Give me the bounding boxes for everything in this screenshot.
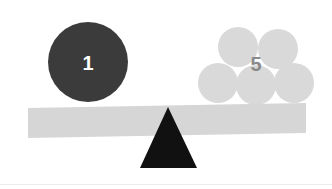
balance-scale-canvas: 1 5 <box>0 0 332 189</box>
balance-scale-figure: 1 5 <box>0 0 332 189</box>
right-pan-group: 5 <box>198 27 314 105</box>
left-pan-group: 1 <box>48 22 128 102</box>
light-weight-circle <box>198 63 238 103</box>
light-weight-circle <box>258 29 298 69</box>
light-weight-circle <box>274 63 314 103</box>
left-pan-count-label: 1 <box>82 52 93 74</box>
right-pan-count-label: 5 <box>250 53 261 75</box>
bottom-divider <box>0 184 332 185</box>
